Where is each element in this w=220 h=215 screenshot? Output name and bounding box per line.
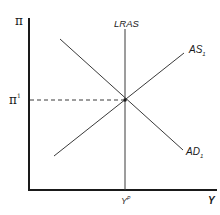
ad-as-diagram <box>0 0 220 215</box>
as-label-subscript: 1 <box>202 51 205 57</box>
lras-label-text: LRAS <box>114 18 139 29</box>
inflation-level-superscript: 1 <box>17 92 21 99</box>
as-label-text: AS <box>189 44 202 55</box>
y-axis-label: π <box>15 15 23 27</box>
equilibrium-point <box>123 98 127 102</box>
y-axis-label-text: π <box>15 14 23 28</box>
potential-output-label: YP <box>121 196 130 206</box>
lras-label: LRAS <box>114 19 139 29</box>
as-label: AS1 <box>189 45 206 57</box>
inflation-level-label: π1 <box>9 94 21 106</box>
inflation-level-text: π <box>9 93 17 107</box>
as-curve <box>54 53 184 156</box>
potential-output-superscript: P <box>127 195 130 201</box>
ad-label-text: AD <box>186 146 200 157</box>
ad-label-subscript: 1 <box>200 153 203 159</box>
x-axis-label: Y <box>208 196 215 206</box>
ad-curve <box>60 39 183 150</box>
ad-label: AD1 <box>186 147 203 159</box>
x-axis-label-text: Y <box>208 195 215 206</box>
